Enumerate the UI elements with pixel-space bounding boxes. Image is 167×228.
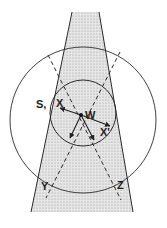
label-x: X (56, 97, 64, 109)
label-z: Z (117, 179, 124, 191)
label-y: Y (41, 180, 49, 192)
label-s: S, (36, 98, 46, 110)
geometry-diagram: S, X W X' Y Z (0, 0, 167, 228)
point-w (79, 113, 83, 117)
label-x-prime: X' (100, 126, 110, 138)
label-w: W (85, 109, 96, 121)
